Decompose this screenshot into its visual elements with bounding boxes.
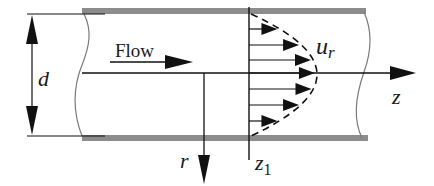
r-axis-arrowhead-icon	[198, 155, 210, 184]
diameter-label: d	[38, 66, 50, 91]
r-axis-label: r	[180, 148, 189, 173]
pipe-flow-diagram: d z Flow r z1 ur	[0, 0, 434, 186]
diameter-arrow-down-icon	[26, 106, 38, 135]
velocity-label-sub: r	[328, 43, 335, 62]
velocity-profile-arrows	[249, 23, 315, 127]
velocity-label: ur	[316, 33, 335, 62]
pipe-wall-bottom	[82, 135, 368, 141]
velocity-arrowhead-icon	[296, 83, 312, 95]
flow-label: Flow	[115, 40, 154, 61]
pipe-wall-top	[82, 8, 366, 14]
break-line-right	[356, 12, 370, 138]
velocity-arrowhead-icon	[295, 54, 311, 66]
station-label: z1	[254, 150, 272, 178]
station-label-main: z	[254, 150, 264, 175]
velocity-label-main: u	[316, 33, 328, 59]
velocity-arrowhead-icon	[299, 67, 315, 79]
velocity-arrowhead-icon	[261, 115, 277, 127]
z-axis-arrowhead-icon	[390, 66, 416, 80]
velocity-arrowhead-icon	[261, 23, 277, 35]
flow-arrowhead-icon	[165, 55, 193, 69]
z-axis-label: z	[391, 84, 401, 109]
diameter-arrow-up-icon	[26, 15, 38, 44]
station-label-sub: 1	[264, 161, 272, 178]
break-line-left	[75, 14, 89, 136]
